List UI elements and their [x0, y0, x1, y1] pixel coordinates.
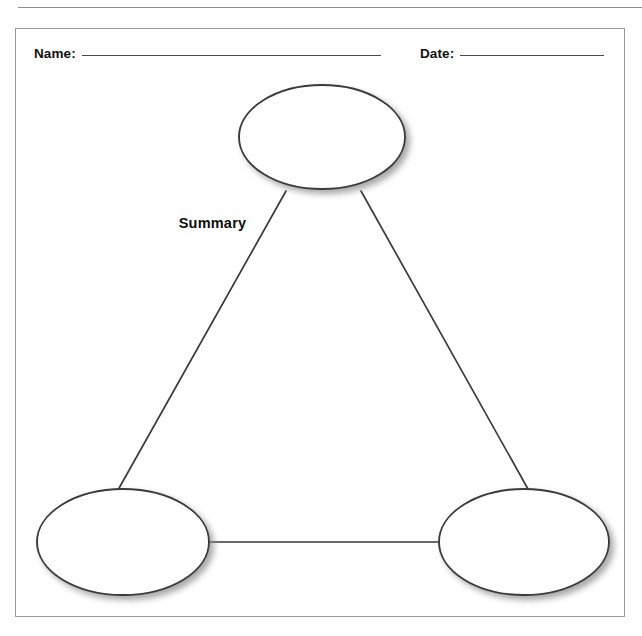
node-top-ellipse[interactable] — [239, 85, 405, 189]
connector-top-to-bottom-left — [118, 191, 286, 490]
worksheet-frame: Name: Date: — [15, 28, 625, 617]
top-horizontal-rule — [18, 7, 642, 8]
node-bottom-right-ellipse[interactable] — [439, 489, 609, 595]
summary-caption: Summary — [16, 215, 409, 231]
node-bottom-left-ellipse[interactable] — [37, 489, 209, 595]
worksheet-page: Name: Date: — [0, 0, 642, 636]
page-header-remnant — [18, 0, 628, 5]
graphic-organizer-diagram: Summary — [16, 29, 624, 616]
connector-top-to-bottom-right — [361, 191, 528, 489]
